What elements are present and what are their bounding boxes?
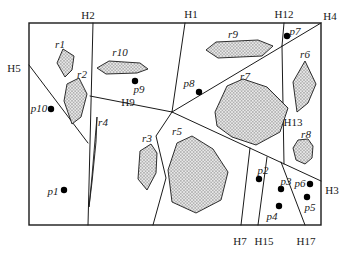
regions-layer bbox=[57, 40, 316, 213]
region-r8 bbox=[293, 139, 313, 164]
region-r10-label: r10 bbox=[112, 46, 128, 58]
h12-line bbox=[282, 23, 284, 46]
label-h12: H12 bbox=[275, 8, 294, 20]
region-r9 bbox=[206, 40, 273, 58]
region-r4-label: r4 bbox=[98, 116, 108, 128]
region-r7-label: r7 bbox=[240, 70, 250, 82]
label-h3: H3 bbox=[325, 184, 339, 196]
label-h15: H15 bbox=[255, 235, 274, 247]
label-h9: H9 bbox=[121, 96, 135, 108]
label-h5: H5 bbox=[7, 62, 21, 74]
point-p9-label: p9 bbox=[133, 83, 146, 95]
region-r8-label: r8 bbox=[301, 128, 311, 140]
point-p1-label: p1 bbox=[47, 185, 59, 197]
point-p2-label: p2 bbox=[257, 164, 270, 176]
region-r3-label: r3 bbox=[142, 132, 152, 144]
h1-line bbox=[172, 23, 185, 112]
labels-layer: r1r2r3r4r5r6r7r8r9r10p1p2p3p4p5p6p7p8p9p… bbox=[7, 8, 339, 247]
point-p3-label: p3 bbox=[280, 175, 293, 187]
point-p6-label: p6 bbox=[294, 177, 307, 189]
point-p8-dot bbox=[196, 89, 202, 95]
region-r1-label: r1 bbox=[55, 38, 65, 50]
label-h13: H13 bbox=[284, 116, 303, 128]
region-r7 bbox=[215, 79, 288, 145]
label-h17: H17 bbox=[297, 235, 316, 247]
region-r2-label: r2 bbox=[77, 68, 87, 80]
point-p8-label: p8 bbox=[183, 77, 196, 89]
h7-line bbox=[241, 148, 250, 225]
label-h2: H2 bbox=[81, 9, 94, 21]
region-r9-label: r9 bbox=[228, 28, 238, 40]
point-p5-label: p5 bbox=[304, 201, 317, 213]
point-p4-label: p4 bbox=[266, 210, 279, 222]
partition-diagram-figure: r1r2r3r4r5r6r7r8r9r10p1p2p3p4p5p6p7p8p9p… bbox=[0, 0, 352, 261]
region-r6-label: r6 bbox=[300, 48, 310, 60]
region-r5-label: r5 bbox=[172, 125, 182, 137]
partition-diagram: r1r2r3r4r5r6r7r8r9r10p1p2p3p4p5p6p7p8p9p… bbox=[0, 0, 352, 261]
region-r3 bbox=[138, 144, 157, 190]
region-r10 bbox=[97, 61, 148, 74]
point-p10-label: p10 bbox=[30, 102, 48, 114]
region-r2 bbox=[64, 78, 87, 124]
point-p2-dot bbox=[256, 176, 262, 182]
region-r6 bbox=[293, 61, 316, 112]
label-h4: H4 bbox=[323, 10, 337, 22]
point-p6-dot bbox=[307, 181, 313, 187]
point-p5-dot bbox=[304, 194, 310, 200]
region-r1 bbox=[57, 49, 74, 77]
point-p10-dot bbox=[48, 106, 54, 112]
region-r5 bbox=[168, 136, 228, 213]
point-p4-dot bbox=[276, 203, 282, 209]
label-h7: H7 bbox=[233, 235, 247, 247]
point-p7-label: p7 bbox=[289, 25, 302, 37]
point-p1-dot bbox=[61, 187, 67, 193]
label-h1: H1 bbox=[184, 8, 197, 20]
